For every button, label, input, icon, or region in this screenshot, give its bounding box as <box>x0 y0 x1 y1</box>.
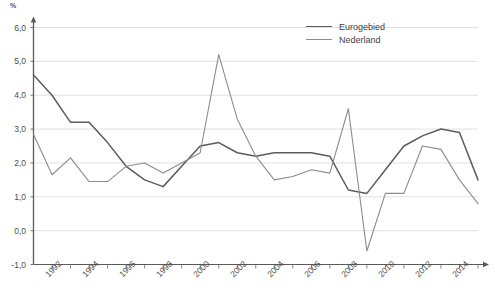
x-axis-arrow <box>483 262 489 268</box>
y-tick-label: 6,0 <box>2 23 26 33</box>
y-tick-label: 1,0 <box>2 192 26 202</box>
data-series-layer <box>34 55 479 251</box>
y-axis-arrow <box>31 17 37 23</box>
legend-label: Eurogebied <box>339 22 385 32</box>
x-axis-ticks <box>52 265 478 269</box>
legend-color-swatch <box>306 39 332 40</box>
y-tick-label: 0,0 <box>2 226 26 236</box>
y-tick-label: 4,0 <box>2 90 26 100</box>
legend-label: Nederland <box>339 35 381 45</box>
y-tick-label: 2,0 <box>2 158 26 168</box>
axis-lines <box>31 17 489 268</box>
series-line-nederland <box>34 55 479 251</box>
chart-legend: EurogebiedNederland <box>306 20 456 46</box>
legend-item[interactable]: Eurogebied <box>306 20 456 33</box>
y-tick-label: 5,0 <box>2 56 26 66</box>
line-chart: % 6,05,04,03,02,01,00,0-1,0 199219941996… <box>0 0 495 300</box>
legend-color-swatch <box>306 26 332 27</box>
gridlines <box>31 28 479 265</box>
y-tick-label: 3,0 <box>2 124 26 134</box>
y-tick-label: -1,0 <box>2 260 26 270</box>
legend-item[interactable]: Nederland <box>306 33 456 46</box>
